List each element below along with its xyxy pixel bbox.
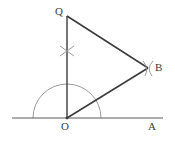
geometry-diagram: Q B O A xyxy=(0,0,175,141)
vertex-label-b: B xyxy=(155,62,162,73)
segment-OB xyxy=(67,68,148,118)
vertex-label-a: A xyxy=(148,121,156,132)
vertex-label-o: O xyxy=(61,121,69,132)
vertex-label-q: Q xyxy=(55,6,63,17)
segment-QB xyxy=(67,16,148,68)
vertex-dot-O xyxy=(66,117,69,120)
